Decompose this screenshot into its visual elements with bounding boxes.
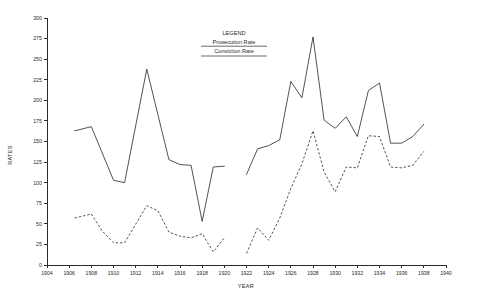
series-line-solid	[247, 37, 424, 174]
chart-legend: LEGENDProsecution RateConviction Rate	[201, 30, 267, 56]
page-edge-band	[0, 288, 481, 298]
x-tick-label: 1940	[440, 270, 452, 276]
x-tick-label: 1920	[219, 270, 231, 276]
x-tick-label: 1924	[263, 270, 275, 276]
x-tick-label: 1912	[130, 270, 142, 276]
x-tick-label: 1910	[108, 270, 120, 276]
series-line-dashed	[247, 131, 424, 254]
x-tick-label: 1922	[241, 270, 253, 276]
y-tick-label: 125	[33, 159, 42, 165]
line-chart: 0255075100125150175200225250275300 19041…	[0, 0, 481, 298]
y-tick-label: 275	[33, 35, 42, 41]
x-tick-label: 1934	[374, 270, 386, 276]
x-tick-label: 1904	[41, 270, 53, 276]
y-tick-label: 50	[36, 221, 42, 227]
legend-title: LEGEND	[222, 30, 245, 36]
x-tick-label: 1916	[174, 270, 186, 276]
x-tick-label: 1930	[329, 270, 341, 276]
series-line-solid	[75, 69, 225, 221]
x-tick-label: 1926	[285, 270, 297, 276]
series-line-dashed	[75, 206, 225, 252]
y-tick-label: 300	[33, 15, 42, 21]
y-tick-label: 75	[36, 200, 42, 206]
y-tick-label: 250	[33, 56, 42, 62]
x-axis: 1904190619081910191219141916191819201922…	[41, 265, 452, 276]
x-tick-label: 1918	[196, 270, 208, 276]
chart-container: 0255075100125150175200225250275300 19041…	[0, 0, 481, 298]
y-axis-title: RATES	[7, 145, 13, 165]
y-tick-label: 225	[33, 77, 42, 83]
y-tick-label: 0	[39, 262, 42, 268]
x-tick-label: 1932	[352, 270, 364, 276]
x-tick-label: 1936	[396, 270, 408, 276]
x-tick-label: 1938	[418, 270, 430, 276]
y-tick-label: 150	[33, 138, 42, 144]
legend-entry-conviction-rate: Conviction Rate	[214, 48, 254, 54]
y-tick-label: 100	[33, 180, 42, 186]
x-tick-label: 1928	[307, 270, 319, 276]
series-layer	[75, 37, 424, 254]
x-tick-label: 1908	[86, 270, 98, 276]
legend-entry-prosecution-rate: Prosecution Rate	[213, 39, 256, 45]
y-tick-label: 200	[33, 97, 42, 103]
y-tick-label: 25	[36, 241, 42, 247]
y-tick-label: 175	[33, 118, 42, 124]
x-tick-label: 1906	[63, 270, 75, 276]
x-tick-label: 1914	[152, 270, 164, 276]
y-axis: 0255075100125150175200225250275300	[33, 15, 47, 268]
